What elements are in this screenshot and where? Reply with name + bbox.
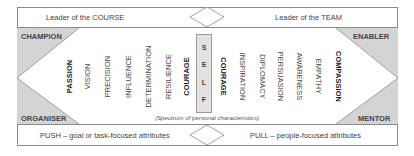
leader-of-team-label: Leader of the TEAM — [275, 13, 342, 22]
attribute-diplomacy: DIPLOMACY — [257, 36, 267, 116]
attribute-passion: PASSION — [65, 36, 75, 116]
attribute-resilience: RESILIENCE — [163, 36, 173, 116]
self-letter-f: F — [202, 96, 206, 103]
attribute-courage-left: COURAGE — [181, 36, 191, 116]
attribute-awareness: AWARENESS — [295, 36, 305, 116]
self-box: S E L F — [196, 34, 212, 113]
self-letter-s: S — [202, 44, 207, 51]
champion-label: CHAMPION — [21, 32, 62, 41]
self-letter-l: L — [202, 79, 206, 86]
enabler-label: ENABLER — [353, 32, 389, 41]
push-label: PUSH – goal or task-focused attributes — [40, 131, 170, 140]
attribute-determination: DETERMINATION — [144, 36, 154, 116]
pull-label: PULL – people-focused attributes — [250, 131, 361, 140]
attribute-compassion: COMPASSION — [333, 36, 343, 116]
leader-of-course-label: Leader of the COURSE — [46, 13, 124, 22]
attribute-inspiration: INSPIRATION — [238, 36, 248, 116]
attribute-vision: VISION — [83, 36, 93, 116]
attribute-influence: INFLUENCE — [123, 36, 133, 116]
self-letter-e: E — [202, 61, 207, 68]
attribute-persuasion: PERSUASION — [276, 36, 286, 116]
attribute-courage-right: COURAGE — [218, 36, 228, 116]
attribute-precision: PRECISION — [103, 36, 113, 116]
spectrum-caption: (Spectrum of personal characteristics) — [0, 114, 414, 121]
attribute-empathy: EMPATHY — [314, 36, 324, 116]
